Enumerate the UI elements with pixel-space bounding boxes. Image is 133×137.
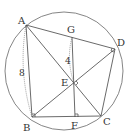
measure-label-AB: 8 <box>19 68 25 78</box>
label-A: A <box>17 15 26 26</box>
label-B: B <box>23 122 30 133</box>
segment-AC <box>26 25 101 116</box>
segment-BC <box>32 116 101 117</box>
measure-label-GE: 4 <box>65 56 71 66</box>
right-angle-mark-E <box>76 81 78 85</box>
geometry-diagram: A B C D E F G 8 4 <box>0 0 133 137</box>
label-F: F <box>71 120 78 131</box>
label-C: C <box>103 116 111 127</box>
segment-AB <box>26 25 32 117</box>
label-G: G <box>67 24 75 35</box>
label-D: D <box>117 37 125 48</box>
label-E: E <box>61 77 68 88</box>
